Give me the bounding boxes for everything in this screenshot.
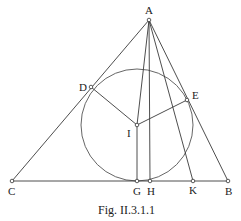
point-I (135, 123, 139, 127)
point-C (10, 179, 14, 183)
point-D (89, 85, 93, 89)
label-K: K (189, 184, 197, 196)
segment-ID (91, 87, 137, 125)
label-D: D (79, 81, 87, 93)
figure-caption: Fig. II.3.1.1 (98, 203, 155, 217)
point-K (191, 179, 195, 183)
label-G: G (133, 185, 141, 197)
segment-AH (149, 20, 150, 181)
point-G (135, 179, 139, 183)
geometry-figure: A D E I C G H K B Fig. II.3.1.1 (0, 0, 241, 221)
label-A: A (145, 4, 153, 16)
label-B: B (225, 185, 232, 197)
segment-AC (12, 20, 149, 181)
label-C: C (8, 185, 15, 197)
point-A (147, 18, 151, 22)
label-E: E (192, 89, 199, 101)
segment-AI (137, 20, 149, 125)
segment-IE (137, 100, 187, 125)
point-E (185, 98, 189, 102)
point-H (148, 179, 152, 183)
label-H: H (147, 185, 155, 197)
label-I: I (127, 127, 131, 139)
point-B (226, 179, 230, 183)
